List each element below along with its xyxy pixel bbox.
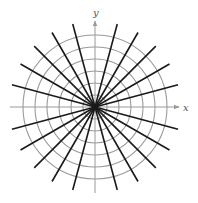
y-axis-label: y (92, 7, 99, 18)
polar-diagram: x y (0, 0, 198, 203)
x-axis-label: x (183, 102, 189, 113)
